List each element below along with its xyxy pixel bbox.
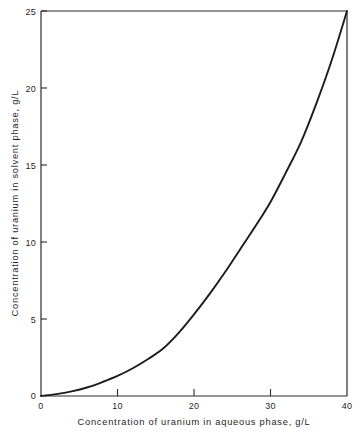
y-tick-label-10: 10 <box>25 238 36 248</box>
x-tick-label-10: 10 <box>112 401 123 411</box>
y-axis-title: Concentration of uranium in solvent phas… <box>10 90 20 317</box>
x-tick-label-20: 20 <box>189 401 200 411</box>
x-axis-title: Concentration of uranium in aqueous phas… <box>78 417 311 427</box>
x-tick-label-0: 0 <box>38 401 43 411</box>
x-tick-label-40: 40 <box>342 401 353 411</box>
y-tick-label-5: 5 <box>31 315 36 325</box>
x-tick-label-30: 30 <box>265 401 276 411</box>
y-tick-label-20: 20 <box>25 84 36 94</box>
chart-page: 0 5 10 15 20 25 0 10 20 30 40 Concentrat… <box>0 0 364 434</box>
y-tick-label-25: 25 <box>25 7 36 17</box>
figure-background <box>0 0 364 434</box>
equilibrium-curve-figure: 0 5 10 15 20 25 0 10 20 30 40 Concentrat… <box>0 0 364 434</box>
y-tick-label-0: 0 <box>31 391 36 401</box>
y-tick-label-15: 15 <box>25 161 36 171</box>
